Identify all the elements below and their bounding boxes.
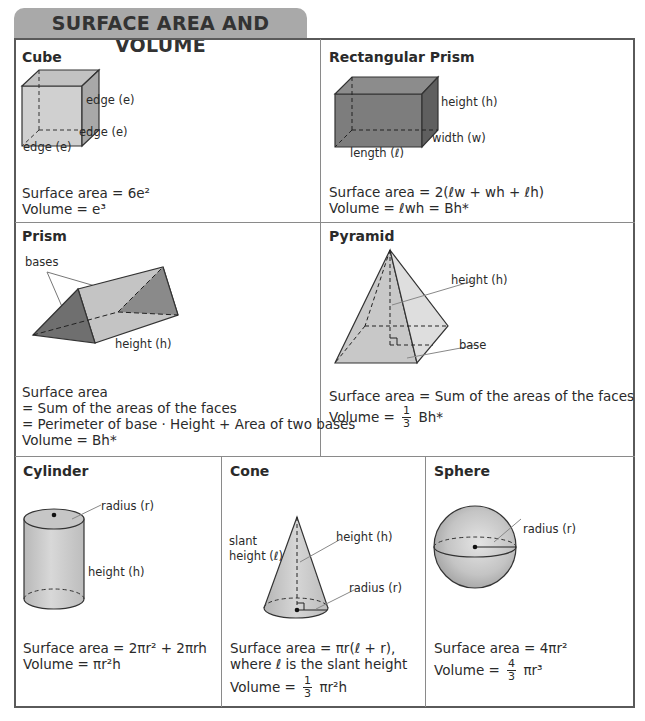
rect-prism-length-label: length (ℓ) bbox=[350, 146, 404, 160]
cell-cube: Cube edge (e) edge (e) edge (e) Surface … bbox=[15, 39, 320, 222]
cell-title-cylinder: Cylinder bbox=[23, 463, 88, 479]
prism-volume: Volume = Bh* bbox=[22, 432, 117, 449]
cube-surface-area: Surface area = 6e² bbox=[22, 185, 150, 202]
cell-sphere: Sphere radius (r) Surface area = 4πr² Vo… bbox=[426, 457, 635, 707]
fraction-denominator: 3 bbox=[507, 671, 516, 683]
sphere-figure bbox=[434, 506, 524, 596]
cylinder-surface-area: Surface area = 2πr² + 2πrh bbox=[23, 640, 207, 657]
sphere-volume-prefix: Volume = bbox=[434, 662, 500, 678]
fraction-denominator: 3 bbox=[303, 688, 312, 700]
cube-edge-label: edge (e) bbox=[79, 125, 127, 139]
cone-volume-suffix: πr²h bbox=[319, 679, 347, 695]
fraction: 13 bbox=[402, 405, 411, 430]
cone-surface-area-note: where ℓ is the slant height bbox=[230, 656, 407, 673]
cylinder-height-label: height (h) bbox=[88, 565, 145, 579]
cube-volume: Volume = e³ bbox=[22, 201, 106, 218]
rectangular-prism-figure bbox=[335, 77, 445, 147]
cone-surface-area: Surface area = πr(ℓ + r), bbox=[230, 640, 395, 657]
cylinder-volume: Volume = πr²h bbox=[23, 656, 121, 673]
cube-edge-label: edge (e) bbox=[86, 93, 134, 107]
sphere-volume-suffix: πr³ bbox=[523, 662, 542, 678]
pyramid-volume: Volume = 13 Bh* bbox=[329, 405, 443, 430]
rect-prism-width-label: width (w) bbox=[432, 131, 486, 145]
cone-height-label: height (h) bbox=[336, 530, 393, 544]
fraction-denominator: 3 bbox=[402, 418, 411, 430]
cell-title-prism: Prism bbox=[22, 228, 67, 244]
cell-title-pyramid: Pyramid bbox=[329, 228, 394, 244]
fraction: 43 bbox=[507, 658, 516, 683]
sphere-radius-label: radius (r) bbox=[523, 522, 576, 536]
sphere-volume: Volume = 43 πr³ bbox=[434, 658, 543, 683]
cone-volume: Volume = 13 πr²h bbox=[230, 675, 347, 700]
pyramid-volume-suffix: Bh* bbox=[418, 409, 443, 425]
cell-rectangular-prism: Rectangular Prism height (h) width (w) l… bbox=[321, 39, 635, 222]
cell-title-sphere: Sphere bbox=[434, 463, 490, 479]
cell-title-cone: Cone bbox=[230, 463, 269, 479]
sphere-surface-area: Surface area = 4πr² bbox=[434, 640, 567, 657]
cone-radius-label: radius (r) bbox=[349, 581, 402, 595]
prism-height-label: height (h) bbox=[115, 337, 172, 351]
title-tab: SURFACE AREA AND VOLUME bbox=[14, 8, 307, 38]
cone-slant-label: slant bbox=[229, 534, 257, 548]
cell-cylinder: Cylinder radius (r) height (h) Surface a… bbox=[15, 457, 221, 707]
pyramid-base-label: base bbox=[459, 338, 486, 352]
cell-prism: Prism bases height (h) Surface area = Su… bbox=[15, 223, 320, 456]
pyramid-height-label: height (h) bbox=[451, 273, 508, 287]
rect-prism-volume: Volume = ℓwh = Bh* bbox=[329, 200, 469, 217]
pyramid-figure bbox=[335, 250, 455, 370]
pyramid-surface-area: Surface area = Sum of the areas of the f… bbox=[329, 388, 634, 405]
rect-prism-surface-area: Surface area = 2(ℓw + wh + ℓh) bbox=[329, 184, 544, 201]
cone-figure bbox=[264, 517, 344, 627]
cell-title-rectangular-prism: Rectangular Prism bbox=[329, 49, 475, 65]
cell-title-cube: Cube bbox=[22, 49, 62, 65]
fraction: 13 bbox=[303, 675, 312, 700]
cylinder-radius-label: radius (r) bbox=[101, 499, 154, 513]
cylinder-figure bbox=[24, 509, 104, 619]
pyramid-volume-prefix: Volume = bbox=[329, 409, 395, 425]
cell-pyramid: Pyramid height (h) base Surface area = S… bbox=[321, 223, 635, 456]
cell-cone: Cone slant height (ℓ) height (h) radius … bbox=[222, 457, 425, 707]
prism-formula-line: = Sum of the areas of the faces bbox=[22, 400, 237, 417]
cube-edge-label: edge (e) bbox=[23, 140, 71, 154]
cone-volume-prefix: Volume = bbox=[230, 679, 296, 695]
prism-formula-line: = Perimeter of base · Height + Area of t… bbox=[22, 416, 355, 433]
prism-formula-line: Surface area bbox=[22, 384, 108, 401]
rect-prism-height-label: height (h) bbox=[441, 95, 498, 109]
